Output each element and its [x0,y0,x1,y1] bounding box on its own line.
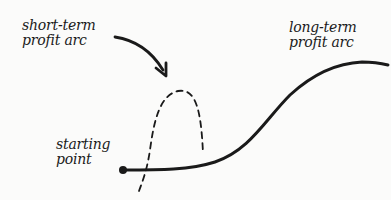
label-line: point [56,152,110,167]
label-line: long-term [289,20,357,35]
starting-point-label: starting point [56,137,110,167]
label-line: profit arc [289,35,357,50]
label-line: profit arc [22,33,96,48]
short-term-profit-arc-label: short-term profit arc [22,18,96,48]
long-term-profit-curve [123,62,388,170]
label-line: starting [56,137,110,152]
pointer-arrow-icon [115,37,166,76]
short-term-profit-arc [139,91,203,191]
label-line: short-term [22,18,96,33]
long-term-profit-arc-label: long-term profit arc [289,20,357,50]
starting-point-dot [119,166,127,174]
